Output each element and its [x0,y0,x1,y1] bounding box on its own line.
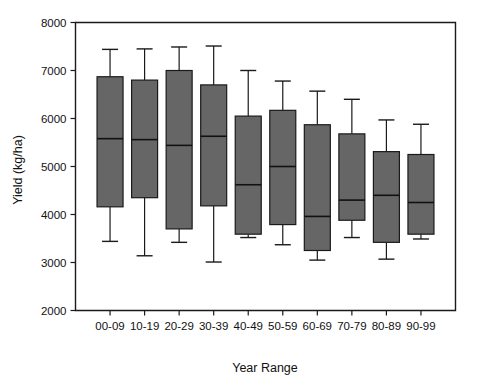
x-tick-label: 90-99 [406,320,435,332]
box-plot-item [339,99,365,237]
y-tick-label: 3000 [41,257,67,269]
box-plot-item [132,49,158,256]
y-tick-label: 6000 [41,113,67,125]
x-tick-label: 50-59 [268,320,297,332]
box-iqr [166,71,192,229]
y-tick-label: 2000 [41,305,67,317]
box-plot-item [304,91,330,260]
y-tick-label: 5000 [41,161,67,173]
box-iqr [97,77,123,207]
box-series [97,46,434,262]
y-axis-ticks: 2000300040005000600070008000 [41,17,76,317]
x-tick-label: 00-09 [95,320,124,332]
y-tick-label: 4000 [41,209,67,221]
box-plot-item [270,81,296,245]
box-plot-item [97,49,123,241]
x-axis-title: Year Range [232,361,298,375]
x-tick-label: 70-79 [337,320,366,332]
y-tick-label: 7000 [41,65,67,77]
box-iqr [408,155,434,235]
x-tick-label: 20-29 [164,320,193,332]
box-plot-item [408,124,434,239]
x-axis-ticks: 00-0910-1920-2930-3940-4950-5960-6970-79… [95,311,435,332]
box-plot-item [166,47,192,242]
box-iqr [373,152,399,243]
y-tick-label: 8000 [41,17,67,29]
box-plot-item [373,120,399,259]
x-tick-label: 80-89 [372,320,401,332]
boxplot-chart: 2000300040005000600070008000 00-0910-192… [0,0,484,388]
box-iqr [304,125,330,251]
box-iqr [201,85,227,206]
x-tick-label: 40-49 [234,320,263,332]
box-plot-item [235,71,261,238]
y-axis-title: Yield (kg/ha) [11,135,25,205]
x-tick-label: 10-19 [130,320,159,332]
box-iqr [270,110,296,224]
boxplot-canvas: 2000300040005000600070008000 00-0910-192… [0,0,484,388]
box-iqr [339,134,365,220]
box-iqr [235,116,261,234]
box-plot-item [201,46,227,262]
x-tick-label: 30-39 [199,320,228,332]
x-tick-label: 60-69 [303,320,332,332]
